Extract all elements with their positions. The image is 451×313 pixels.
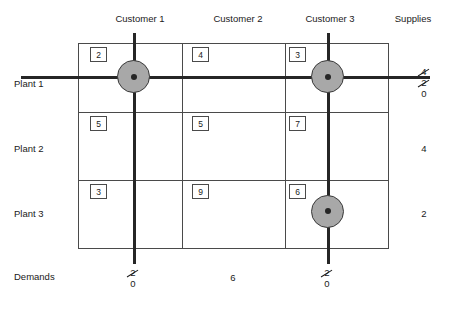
cost-cell-plant2-customer3: 7 — [289, 116, 306, 131]
node-dot-plant3-customer3 — [325, 208, 331, 214]
supply-crossed-plant1-1: 2 — [420, 77, 427, 88]
demand-crossed-customer1-0: 2 — [129, 267, 136, 278]
grid-line-horizontal-1 — [78, 112, 388, 113]
row-header-plant-3: Plant 3 — [14, 208, 44, 219]
cost-cell-plant1-customer1: 2 — [90, 47, 107, 62]
node-dot-plant1-customer1 — [131, 74, 137, 80]
cost-cell-plant3-customer2: 9 — [192, 184, 209, 199]
cost-cell-plant1-customer3: 3 — [289, 47, 306, 62]
demand-current-customer-3: 0 — [307, 278, 347, 289]
demand-value-customer-2: 6 — [213, 272, 253, 283]
cost-cell-plant3-customer1: 3 — [90, 184, 107, 199]
supply-crossed-plant1-0: 4 — [420, 66, 427, 77]
grid-line-horizontal-bottom — [78, 248, 388, 249]
cost-cell-plant1-customer2: 4 — [192, 47, 209, 62]
node-dot-plant1-customer3 — [325, 74, 331, 80]
column-header-customer-3: Customer 3 — [288, 13, 372, 24]
grid-line-horizontal-2 — [78, 180, 388, 181]
demand-current-customer-1: 0 — [113, 278, 153, 289]
column-header-customer-2: Customer 2 — [196, 13, 280, 24]
demand-value-customer-1: 2 0 — [113, 267, 153, 289]
grid-line-vertical-2 — [285, 43, 286, 249]
column-header-customer-1: Customer 1 — [98, 13, 182, 24]
supply-value-plant-1: 4 2 0 — [404, 66, 444, 99]
transportation-tableau: Customer 1 Customer 2 Customer 3 Supplie… — [0, 0, 451, 313]
supply-value-plant-2: 4 — [404, 143, 444, 154]
grid-line-horizontal-top — [78, 43, 388, 44]
grid-line-vertical-1 — [182, 43, 183, 249]
path-line-plant-1 — [21, 76, 430, 79]
row-header-plant-1: Plant 1 — [14, 78, 44, 89]
row-header-demands: Demands — [14, 271, 55, 282]
grid-line-vertical-left — [78, 43, 79, 249]
demand-crossed-customer3-0: 2 — [323, 267, 330, 278]
grid-line-vertical-right — [388, 43, 389, 249]
cost-cell-plant3-customer3: 6 — [289, 184, 306, 199]
supply-current-plant-1: 0 — [404, 88, 444, 99]
row-header-plant-2: Plant 2 — [14, 143, 44, 154]
cost-cell-plant2-customer1: 5 — [90, 116, 107, 131]
demand-value-customer-3: 2 0 — [307, 267, 347, 289]
cost-cell-plant2-customer2: 5 — [192, 116, 209, 131]
supply-value-plant-3: 2 — [404, 208, 444, 219]
column-header-supplies: Supplies — [382, 13, 444, 24]
